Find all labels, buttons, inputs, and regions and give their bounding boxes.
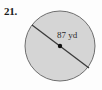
diameter-measurement-label: 87 yd (57, 30, 77, 41)
circle-diagram-svg (0, 0, 102, 90)
geometry-figure-circle: 21. 87 yd (0, 0, 102, 90)
center-point-dot (58, 44, 62, 48)
